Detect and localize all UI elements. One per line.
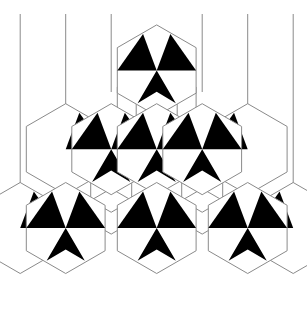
hex-tessellation-canvas (0, 0, 307, 324)
pattern-figure (0, 0, 307, 324)
